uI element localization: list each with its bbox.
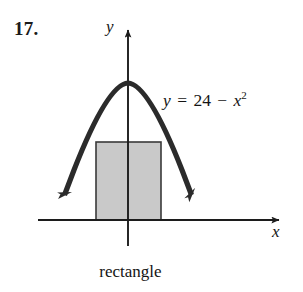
figure-container: 17. y x y = 24 − x2 rectangle bbox=[0, 0, 303, 292]
x-axis-label: x bbox=[272, 222, 280, 242]
figure-caption: rectangle bbox=[0, 262, 303, 282]
equation-constant: 24 bbox=[193, 90, 211, 110]
figure-caption-text: rectangle bbox=[99, 262, 161, 281]
equation-exponent: 2 bbox=[241, 89, 247, 101]
curve-equation-label: y = 24 − x2 bbox=[163, 90, 247, 111]
problem-number: 17. bbox=[14, 18, 38, 40]
graph-canvas bbox=[0, 0, 303, 292]
equation-equals: = bbox=[175, 90, 189, 110]
equation-minus: − bbox=[215, 90, 229, 110]
y-axis-label: y bbox=[106, 17, 114, 37]
equation-lhs: y bbox=[163, 90, 171, 110]
